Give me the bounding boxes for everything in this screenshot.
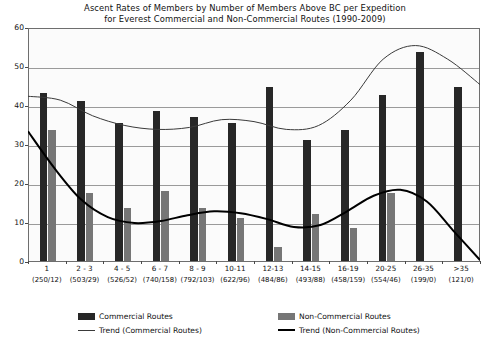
bar-non-commercial	[237, 218, 245, 261]
bar-non-commercial	[48, 130, 56, 261]
legend-swatch-icon	[78, 313, 95, 320]
bar-group	[104, 29, 142, 261]
x-axis-category: 26-35	[405, 264, 443, 275]
x-axis-counts: (526/52)	[103, 275, 141, 286]
bar-non-commercial	[199, 208, 207, 261]
bar-commercial	[40, 93, 48, 261]
y-axis-tick-label: 60	[0, 23, 24, 32]
y-axis-tick-label: 0	[0, 257, 24, 266]
x-axis-category: 16-19	[329, 264, 367, 275]
x-axis-tick	[292, 261, 293, 264]
x-axis-tick	[480, 261, 481, 264]
legend-column: Non-Commercial RoutesTrend (Non-Commerci…	[278, 309, 420, 337]
x-axis-category: 20-25	[367, 264, 405, 275]
bar-group	[406, 29, 444, 261]
x-axis-group-label: >35(121/0)	[442, 264, 480, 285]
x-axis-group-label: 26-35(199/0)	[405, 264, 443, 285]
x-axis-category: >35	[442, 264, 480, 275]
x-axis-counts: (250/12)	[28, 275, 66, 286]
legend-line-icon	[278, 329, 295, 331]
plot-area	[28, 28, 480, 262]
x-axis-group-label: 6 - 7(740/158)	[141, 264, 179, 285]
x-axis-counts: (622/96)	[216, 275, 254, 286]
bar-group	[443, 29, 481, 261]
bar-non-commercial	[124, 208, 132, 261]
x-axis-category: 1	[28, 264, 66, 275]
bar-commercial	[115, 123, 123, 261]
bar-group	[293, 29, 331, 261]
legend-label: Commercial Routes	[99, 312, 173, 321]
x-axis-tick	[141, 261, 142, 264]
chart-title-line-1: Ascent Rates of Members by Number of Mem…	[0, 3, 490, 14]
y-axis-tick-label: 30	[0, 140, 24, 149]
bar-commercial	[454, 87, 462, 261]
bar-group	[29, 29, 67, 261]
x-axis-tick	[367, 261, 368, 264]
x-axis-counts: (121/0)	[442, 275, 480, 286]
bar-non-commercial	[161, 191, 169, 261]
x-axis-category: 2 - 3	[66, 264, 104, 275]
x-axis-group-label: 8 - 9(792/103)	[179, 264, 217, 285]
x-axis-counts: (503/29)	[66, 275, 104, 286]
legend-item: Non-Commercial Routes	[278, 309, 420, 323]
bar-commercial	[228, 123, 236, 261]
x-axis-counts: (493/88)	[292, 275, 330, 286]
x-axis-category: 4 - 5	[103, 264, 141, 275]
x-axis-tick	[442, 261, 443, 264]
bar-group	[217, 29, 255, 261]
bar-commercial	[379, 95, 387, 261]
bar-commercial	[77, 101, 85, 261]
bar-commercial	[190, 117, 198, 261]
x-axis-tick	[216, 261, 217, 264]
x-axis-tick	[254, 261, 255, 264]
x-axis-category: 12-13	[254, 264, 292, 275]
legend-label: Trend (Commercial Routes)	[99, 326, 202, 335]
x-axis-tick	[179, 261, 180, 264]
bar-group	[255, 29, 293, 261]
x-axis-tick	[28, 261, 29, 264]
x-axis-group-label: 2 - 3(503/29)	[66, 264, 104, 285]
x-axis-group-label: 10-11(622/96)	[216, 264, 254, 285]
bar-non-commercial	[86, 193, 94, 261]
bar-group	[180, 29, 218, 261]
x-axis-counts: (740/158)	[141, 275, 179, 286]
bar-commercial	[153, 111, 161, 261]
x-axis-counts: (458/159)	[329, 275, 367, 286]
bar-series-group	[29, 29, 479, 261]
y-axis-tick-label: 50	[0, 62, 24, 71]
x-axis-tick	[66, 261, 67, 264]
bar-group	[330, 29, 368, 261]
x-axis-tick	[405, 261, 406, 264]
chart-container: Ascent Rates of Members by Number of Mem…	[0, 0, 490, 342]
legend-label: Trend (Non-Commercial Routes)	[299, 326, 420, 335]
bar-commercial	[341, 130, 349, 261]
x-axis-group-label: 4 - 5(526/52)	[103, 264, 141, 285]
x-axis-group-label: 16-19(458/159)	[329, 264, 367, 285]
bar-group	[368, 29, 406, 261]
legend-item: Trend (Commercial Routes)	[78, 323, 202, 337]
bar-commercial	[303, 140, 311, 261]
chart-legend: Commercial RoutesTrend (Commercial Route…	[0, 309, 490, 339]
y-axis-tick-label: 20	[0, 179, 24, 188]
y-axis-tick-label: 10	[0, 218, 24, 227]
legend-line-icon	[78, 330, 95, 331]
x-axis-counts: (484/86)	[254, 275, 292, 286]
chart-title: Ascent Rates of Members by Number of Mem…	[0, 3, 490, 25]
legend-item: Trend (Non-Commercial Routes)	[278, 323, 420, 337]
bar-non-commercial	[387, 193, 395, 261]
bar-commercial	[266, 87, 274, 261]
chart-title-line-2: for Everest Commercial and Non-Commercia…	[0, 14, 490, 25]
y-axis-tick-label: 40	[0, 101, 24, 110]
x-axis-tick	[329, 261, 330, 264]
bar-group	[67, 29, 105, 261]
x-axis-group-label: 20-25(554/46)	[367, 264, 405, 285]
x-axis-counts: (792/103)	[179, 275, 217, 286]
x-axis-group-label: 1(250/12)	[28, 264, 66, 285]
legend-swatch-icon	[278, 313, 295, 320]
x-axis-category: 8 - 9	[179, 264, 217, 275]
x-axis-group-label: 14-15(493/88)	[292, 264, 330, 285]
bar-non-commercial	[312, 214, 320, 261]
x-axis-labels: 1(250/12)2 - 3(503/29)4 - 5(526/52)6 - 7…	[28, 264, 480, 304]
x-axis-counts: (199/0)	[405, 275, 443, 286]
bar-non-commercial	[274, 247, 282, 261]
